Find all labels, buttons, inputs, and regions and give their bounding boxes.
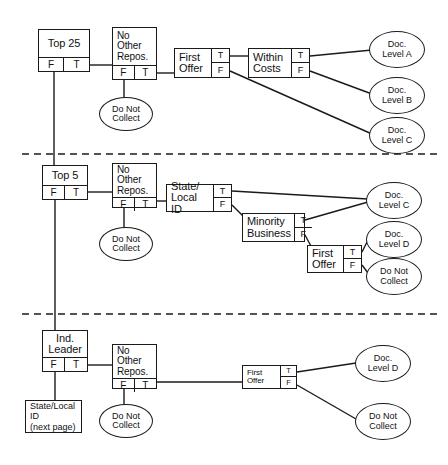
decision-no-other-repos-2-false-cell[interactable]: F bbox=[113, 198, 135, 211]
terminal-do-not-collect-1[interactable]: Do Not Collect bbox=[99, 97, 153, 131]
wire-fo1-false bbox=[230, 71, 372, 134]
decision-no-other-repos-3-true-cell[interactable]: T bbox=[135, 379, 157, 392]
terminal-state-local-id-next-page[interactable]: State/Local ID (next page) bbox=[25, 400, 82, 433]
decision-within-costs[interactable]: Within Costs T F bbox=[248, 48, 310, 78]
decision-first-offer-3-true-cell[interactable]: T bbox=[281, 366, 296, 377]
terminal-do-not-collect-2[interactable]: Do Not Collect bbox=[99, 227, 153, 261]
decision-within-costs-true-cell[interactable]: T bbox=[292, 49, 309, 63]
decision-minority-business-true-cell[interactable]: T bbox=[295, 214, 312, 228]
decision-first-offer-3-label: First Offer bbox=[243, 366, 281, 388]
wire-wc-true bbox=[310, 50, 372, 56]
terminal-do-not-collect-5[interactable]: Do Not Collect bbox=[355, 403, 411, 440]
decision-state-local-id-label: State/ Local ID bbox=[167, 185, 214, 211]
decision-no-other-repos-3[interactable]: No Other Repos. F T bbox=[112, 344, 157, 389]
wire-fo3-false bbox=[297, 385, 356, 419]
decision-top-25-true-cell[interactable]: T bbox=[64, 58, 89, 71]
decision-first-offer-2-label: First Offer bbox=[308, 246, 344, 272]
terminal-do-not-collect-4[interactable]: Do Not Collect bbox=[99, 404, 153, 438]
decision-no-other-repos-1-false-cell[interactable]: F bbox=[113, 66, 135, 79]
terminal-doc-level-d-1[interactable]: Doc. Level D bbox=[366, 221, 422, 258]
decision-no-other-repos-2-true-cell[interactable]: T bbox=[135, 198, 157, 211]
decision-top-25[interactable]: Top 25 F T bbox=[38, 29, 90, 72]
wire-wc-false bbox=[310, 71, 372, 94]
decision-minority-business-false-cell[interactable]: F bbox=[295, 228, 312, 242]
decision-first-offer-1-true-cell[interactable]: T bbox=[212, 49, 229, 63]
decision-no-other-repos-2[interactable]: No Other Repos. F T bbox=[112, 163, 157, 208]
decision-top-5-false-cell[interactable]: F bbox=[43, 186, 65, 199]
wire-slid-true bbox=[232, 191, 368, 199]
terminal-doc-level-a[interactable]: Doc. Level A bbox=[369, 31, 425, 68]
decision-minority-business-label: Minority Business bbox=[243, 214, 295, 241]
decision-top-5-label: Top 5 bbox=[43, 166, 87, 185]
terminal-do-not-collect-3[interactable]: Do Not Collect bbox=[366, 258, 422, 295]
decision-first-offer-2[interactable]: First Offer T F bbox=[307, 245, 362, 273]
decision-no-other-repos-1-true-cell[interactable]: T bbox=[135, 66, 157, 79]
decision-no-other-repos-3-false-cell[interactable]: F bbox=[113, 379, 135, 392]
terminal-doc-level-c-2[interactable]: Doc. Level C bbox=[366, 182, 422, 219]
decision-within-costs-false-cell[interactable]: F bbox=[292, 63, 309, 77]
decision-ind-leader-false-cell[interactable]: F bbox=[43, 358, 65, 371]
decision-no-other-repos-1-label: No Other Repos. bbox=[113, 28, 156, 65]
decision-no-other-repos-2-label: No Other Repos. bbox=[113, 164, 156, 197]
decision-ind-leader-true-cell[interactable]: T bbox=[65, 358, 87, 371]
decision-first-offer-1-label: First Offer bbox=[175, 49, 212, 77]
decision-within-costs-label: Within Costs bbox=[249, 49, 292, 77]
decision-first-offer-1-false-cell[interactable]: F bbox=[212, 63, 229, 77]
decision-state-local-id-false-cell[interactable]: F bbox=[214, 198, 231, 211]
decision-top-5[interactable]: Top 5 F T bbox=[42, 165, 88, 200]
decision-no-other-repos-1[interactable]: No Other Repos. F T bbox=[112, 27, 157, 80]
terminal-doc-level-b[interactable]: Doc. Level B bbox=[369, 77, 425, 114]
decision-no-other-repos-3-label: No Other Repos. bbox=[113, 345, 156, 378]
decision-first-offer-3-false-cell[interactable]: F bbox=[281, 377, 296, 388]
decision-top-25-label: Top 25 bbox=[39, 30, 89, 57]
decision-first-offer-2-false-cell[interactable]: F bbox=[344, 259, 361, 272]
decision-state-local-id-true-cell[interactable]: T bbox=[214, 185, 231, 198]
flowchart-canvas: Top 25 F T No Other Repos. F T First Off… bbox=[0, 0, 448, 465]
decision-ind-leader[interactable]: Ind. Leader F T bbox=[42, 330, 88, 372]
wire-mb-true bbox=[305, 202, 368, 220]
decision-top-5-true-cell[interactable]: T bbox=[65, 186, 87, 199]
decision-state-local-id[interactable]: State/ Local ID T F bbox=[166, 184, 232, 212]
decision-first-offer-3[interactable]: First Offer T F bbox=[242, 365, 297, 389]
terminal-doc-level-c-1[interactable]: Doc. Level C bbox=[369, 117, 425, 154]
decision-first-offer-2-true-cell[interactable]: T bbox=[344, 246, 361, 259]
decision-minority-business[interactable]: Minority Business T F bbox=[242, 213, 305, 242]
wire-fo3-true bbox=[297, 363, 356, 372]
terminal-doc-level-d-2[interactable]: Doc. Level D bbox=[355, 345, 411, 382]
decision-ind-leader-label: Ind. Leader bbox=[43, 331, 87, 357]
decision-first-offer-1[interactable]: First Offer T F bbox=[174, 48, 230, 78]
decision-top-25-false-cell[interactable]: F bbox=[39, 58, 64, 71]
